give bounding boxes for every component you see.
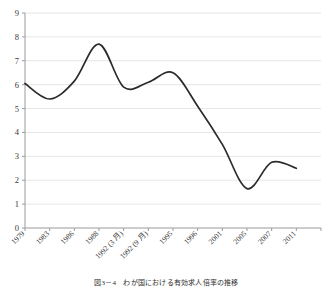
x-tick-label: 1986 [59,229,76,246]
y-tick-label: 8 [15,32,19,42]
y-tick-label: 5 [15,104,19,114]
x-tick-label: 1988 [83,229,100,246]
y-tick-label: 3 [15,151,19,161]
y-tick-label: 9 [15,8,19,18]
y-axis-ticks-group: 0123456789 [15,8,25,233]
x-tick-label: 2005 [231,229,248,246]
x-axis-ticks-group: 19791983198619881992 (3 月)1992 (9 月)1995… [9,228,321,261]
figure-caption: 図3－4 わが国における有効求人倍率の推移 [0,277,333,287]
x-tick-label: 2007 [256,229,273,246]
y-tick-label: 1 [15,199,19,209]
x-tick-label: 2001 [207,229,224,246]
x-tick-label: 1979 [9,229,26,246]
figure-container: 0123456789 19791983198619881992 (3 月)199… [0,0,333,288]
x-tick-label: 1983 [34,229,51,246]
y-tick-label: 2 [15,175,19,185]
data-series-line [25,44,296,189]
y-tick-label: 7 [15,56,19,66]
x-tick-label: 1996 [182,229,199,246]
x-tick-label: 1995 [157,229,174,246]
x-tick-label: 2011 [281,229,298,246]
gridlines-group [25,13,321,204]
line-chart: 0123456789 19791983198619881992 (3 月)199… [0,0,333,288]
y-tick-label: 4 [15,127,20,137]
y-tick-label: 6 [15,80,19,90]
